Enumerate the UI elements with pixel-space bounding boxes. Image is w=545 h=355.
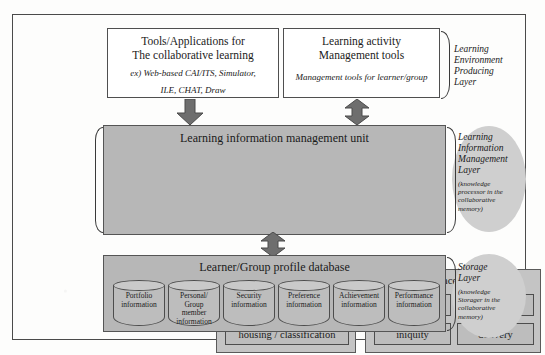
limu-title: Learning information management unit — [104, 131, 445, 146]
storage-layer-label: Storage Layer (knowledge Storager in the… — [458, 262, 522, 321]
cylinder-top — [278, 280, 330, 291]
tools-example-line1: ex) Web-based CAI/ITS, Simulator, — [108, 68, 278, 79]
database-cylinder: Preference information — [278, 280, 330, 326]
cylinder-label: Personal/ Group member information — [169, 292, 219, 326]
tools-applications-box: Tools/Applications for The collaborative… — [107, 28, 279, 98]
lamt-title-line2: Management tools — [284, 49, 439, 63]
cylinder-label: Performance information — [389, 292, 439, 309]
cylinder-top — [333, 280, 385, 291]
cylinder-label: Preference information — [279, 292, 329, 309]
cylinder-top — [113, 280, 165, 291]
cylinder-top — [388, 280, 440, 291]
learning-information-management-layer-label: Learning Information Management Layer (k… — [458, 132, 522, 213]
learning-activity-management-tools-box: Learning activity Management tools Manag… — [283, 28, 440, 98]
database-cylinder: Personal/ Group member information — [168, 280, 220, 326]
database-cylinder: Performance information — [388, 280, 440, 326]
arrow-down-icon — [176, 99, 204, 126]
lamt-title-line1: Learning activity — [284, 35, 439, 49]
learning-environment-producing-layer-label: Learning Environment Producing Layer — [454, 44, 524, 88]
database-title: Learner/Group profile database — [104, 260, 445, 275]
storage-layer-note: (knowledge Storager in the collaborative… — [458, 288, 522, 321]
storage-layer-title: Storage Layer — [458, 262, 488, 283]
lamt-example-line1: Management tools for learner/group — [284, 72, 439, 83]
top-layer-bracket — [441, 31, 450, 99]
database-cylinder: Achievement information — [333, 280, 385, 326]
bottom-layer-bracket — [447, 257, 456, 331]
learner-group-profile-database-panel: Learner/Group profile database Portfolio… — [103, 255, 446, 332]
middle-layer-bracket — [447, 127, 456, 233]
tools-title-line1: Tools/Applications for — [108, 35, 278, 49]
tools-title-line2: The collaborative learning — [108, 49, 278, 63]
database-cylinder: Security information — [223, 280, 275, 326]
cylinder-top — [168, 280, 220, 291]
cylinder-top — [223, 280, 275, 291]
lim-layer-title: Learning Information Management Layer — [458, 132, 508, 175]
cylinder-label: Achievement information — [334, 292, 384, 309]
cylinder-label: Portfolio information — [114, 292, 164, 309]
cylinder-label: Security information — [224, 292, 274, 309]
database-cylinder: Portfolio information — [113, 280, 165, 326]
tools-example-line2: ILE, CHAT, Draw — [108, 85, 278, 96]
lim-layer-note: (knowledge processor in the collaborativ… — [458, 180, 522, 213]
collaborative-memory-bracket — [95, 127, 103, 233]
arrow-up-down-icon — [343, 99, 371, 126]
learning-information-management-unit-panel: Learning information management unit Sto… — [103, 125, 446, 235]
